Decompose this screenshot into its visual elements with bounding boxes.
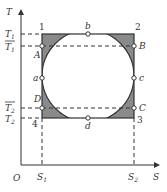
label-d: d [85, 121, 91, 131]
label-b: b [85, 21, 91, 31]
label-c: c [139, 73, 144, 83]
point-B [132, 44, 136, 48]
corner-1: 1 [39, 22, 45, 32]
label-D: D [33, 94, 41, 104]
corner-2: 2 [135, 22, 141, 32]
label-B: B [138, 41, 146, 51]
tick-T2: T2 [5, 114, 15, 125]
tick-T2-bar: T2 [5, 103, 15, 114]
label-A: A [33, 50, 41, 60]
origin-label: O [13, 173, 21, 183]
point-b [86, 32, 90, 36]
point-D [40, 106, 44, 110]
point-A [40, 44, 44, 48]
tick-T1: T1 [5, 29, 15, 40]
point-d [86, 116, 90, 120]
corner-3: 3 [137, 115, 143, 125]
tick-S2: S2 [128, 172, 138, 183]
label-a: a [33, 73, 38, 83]
tick-S1: S1 [37, 172, 47, 183]
ts-diagram: T S O T1 T1 T2 T2 S1 S2 1 2 3 4 A B C D … [0, 0, 167, 192]
s-axis-label: S [153, 172, 159, 182]
t-axis-label: T [6, 7, 13, 17]
point-C [132, 106, 136, 110]
tick-T1-bar: T1 [5, 42, 15, 53]
carnot-rectangle [42, 34, 134, 118]
point-a [40, 76, 44, 80]
corner-4: 4 [32, 119, 38, 129]
label-C: C [139, 103, 146, 113]
point-c [132, 76, 136, 80]
